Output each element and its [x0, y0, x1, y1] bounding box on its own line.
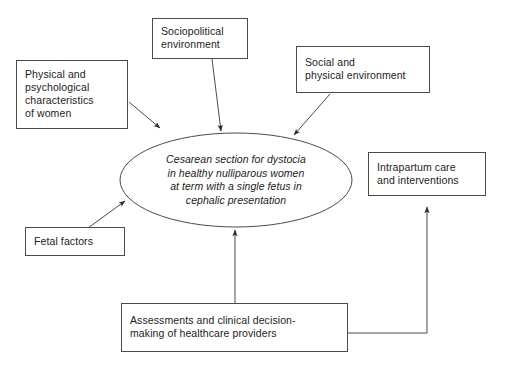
arrow-fetal-to-center — [88, 201, 125, 228]
node-intrapartum-care[interactable]: Intrapartum care and interventions — [368, 152, 486, 196]
node-label-line: Social and — [305, 56, 422, 69]
arrow-assessments-to-intrapartum — [348, 207, 427, 333]
node-sociopolitical-environment[interactable]: Sociopolitical environment — [152, 18, 248, 59]
center-label-line: in healthy nulliparous women — [168, 167, 305, 181]
node-label-line: Assessments and clinical decision- — [130, 314, 340, 327]
node-label-line: Intrapartum care — [377, 161, 478, 174]
diagram-canvas: Physical and psychological characteristi… — [0, 0, 506, 366]
node-label-line: of women — [25, 107, 120, 120]
arrow-social-to-center — [294, 94, 330, 135]
arrow-physical-to-center — [129, 102, 160, 128]
node-fetal-factors[interactable]: Fetal factors — [25, 227, 125, 256]
center-label-line: at term with a single fetus in — [170, 180, 302, 194]
node-label-line: environment — [161, 38, 240, 51]
node-label-line: physical environment — [305, 69, 422, 82]
node-social-physical-environment[interactable]: Social and physical environment — [296, 46, 430, 93]
node-label-line: Sociopolitical — [161, 25, 240, 38]
node-label-line: making of healthcare providers — [130, 327, 340, 340]
center-label-line: Cesarean section for dystocia — [166, 153, 306, 167]
arrow-sociopolitical-to-center — [212, 59, 221, 131]
node-label-line: Fetal factors — [34, 235, 117, 248]
node-label-line: psychological — [25, 81, 120, 94]
node-assessments-decision-making[interactable]: Assessments and clinical decision- makin… — [121, 303, 348, 352]
center-label-line: cephalic presentation — [186, 194, 286, 208]
node-physical-psychological-characteristics[interactable]: Physical and psychological characteristi… — [16, 60, 128, 129]
node-center-outcome[interactable]: Cesarean section for dystocia in healthy… — [130, 146, 342, 214]
node-label-line: and interventions — [377, 174, 478, 187]
node-label-line: Physical and — [25, 68, 120, 81]
node-label-line: characteristics — [25, 94, 120, 107]
